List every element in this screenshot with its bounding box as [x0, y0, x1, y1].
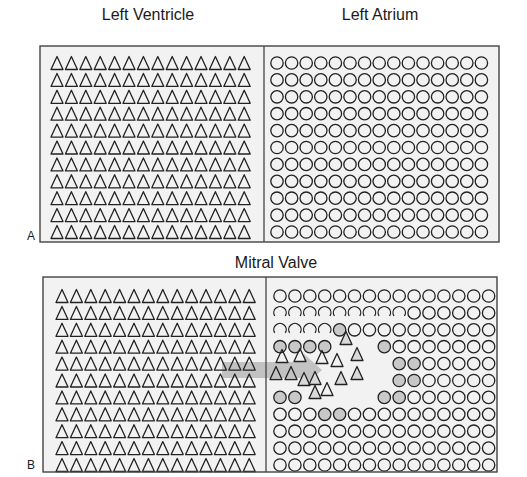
shaded-circle-icon — [333, 408, 345, 420]
shaded-circle-icon — [393, 391, 405, 403]
shaded-circle-icon — [274, 341, 286, 353]
panel-a — [40, 46, 499, 242]
shaded-circle-icon — [393, 374, 405, 386]
atrium-background — [264, 46, 499, 242]
shaded-circle-icon — [378, 391, 390, 403]
shaded-circle-icon — [274, 391, 286, 403]
shaded-circle-icon — [378, 341, 390, 353]
shaded-circle-icon — [289, 391, 301, 403]
shaded-circle-icon — [304, 341, 316, 353]
diagram-canvas — [0, 0, 527, 477]
shaded-circle-icon — [393, 357, 405, 369]
panel-b — [43, 277, 497, 472]
shaded-circle-icon — [319, 341, 331, 353]
shaded-circle-icon — [319, 408, 331, 420]
shaded-circle-icon — [408, 374, 420, 386]
shaded-circle-icon — [333, 324, 345, 336]
shaded-circle-icon — [408, 357, 420, 369]
